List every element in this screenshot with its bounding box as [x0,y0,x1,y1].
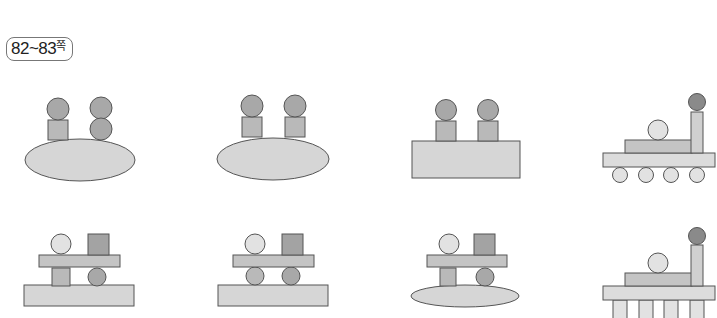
figure-8 [602,226,717,318]
block-figure-rectangle-pillar-ball-plank [22,232,140,312]
block-figure-ellipse-ball-stack [20,95,140,185]
figure-3 [410,98,525,183]
figure-1 [20,95,140,185]
page-range: 82~83 [11,39,56,58]
block-figure-rectangle-two-columns [410,98,525,183]
block-figure-ellipse-two-columns [215,95,335,185]
figure-4 [602,92,717,184]
block-figure-train-wheels [602,92,717,184]
block-figure-train-pillars [602,226,717,318]
page-reference-badge: 82~83쪽 [6,37,73,61]
page-suffix: 쪽 [56,40,66,52]
figure-6 [216,232,334,312]
figure-5 [22,232,140,312]
block-figure-rectangle-two-balls-plank [216,232,334,312]
block-figure-ellipse-pillar-ball-plank [410,232,528,312]
figure-2 [215,95,335,185]
figure-7 [410,232,528,312]
